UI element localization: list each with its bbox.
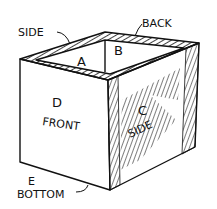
- back-label: BACK: [142, 17, 173, 30]
- box-drawing: [20, 32, 199, 190]
- side-leader: [57, 32, 70, 44]
- d-label: D: [52, 95, 62, 110]
- side-top-label: SIDE: [18, 26, 44, 39]
- bottom-label: BOTTOM: [17, 188, 64, 201]
- b-label: B: [114, 43, 123, 58]
- c-label: C: [138, 103, 147, 118]
- a-label: A: [77, 54, 86, 69]
- e-label: E: [28, 175, 35, 188]
- bottom-leader: [76, 185, 88, 192]
- back-leader: [135, 24, 142, 36]
- box-diagram: SIDE BACK A B D FRONT C SIDE E BOTTOM: [0, 0, 217, 209]
- front-edge-grain: [108, 76, 120, 190]
